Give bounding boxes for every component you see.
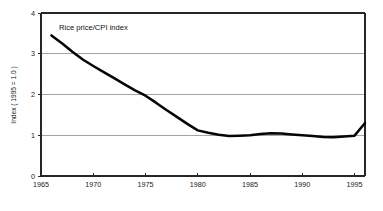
x-tick-label: 1980 [190,180,206,189]
x-tick-label: 1975 [138,180,154,189]
y-tick-label: 2 [31,90,35,99]
x-tick-label: 1995 [347,180,363,189]
y-tick-label: 4 [31,9,35,18]
line-chart: 1965197019751980198519901995 01234 Index… [0,0,383,211]
chart-container: 1965197019751980198519901995 01234 Index… [0,0,383,211]
x-tick-label: 1970 [85,180,101,189]
y-tick-label: 1 [31,131,35,140]
series-annotation-label: Rice price/CPI index [59,23,128,32]
y-tick-label: 3 [31,49,35,58]
x-tick-label: 1985 [242,180,258,189]
y-tick-label: 0 [31,172,35,181]
y-axis-title: Index ( 1995 = 1.0 ) [10,66,18,123]
x-tick-label: 1990 [294,180,310,189]
x-tick-label: 1965 [33,180,49,189]
